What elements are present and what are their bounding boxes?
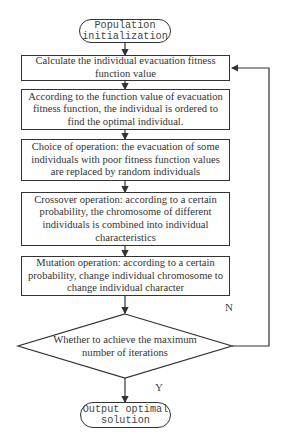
arrow-loop-back-no <box>232 68 269 346</box>
start-terminator: Population initialization <box>79 19 171 43</box>
step-fitness-box: Calculate the individual evacuation fitn… <box>21 55 230 81</box>
end-terminator: Output optimal solution <box>80 402 171 428</box>
flowchart: Population initialization Calculate the … <box>0 0 282 443</box>
no-branch-label: N <box>225 301 233 313</box>
step-crossover-box: Crossover operation: according to a cert… <box>21 192 230 246</box>
step-selection-box: Choice of operation: the evacuation of s… <box>21 139 230 181</box>
yes-branch-label: Y <box>155 381 163 393</box>
step-mutation-box: Mutation operation: according to a certa… <box>21 256 230 296</box>
step-sort-box: According to the function value of evacu… <box>21 89 230 130</box>
decision-label: Whether to achieve the maximum number of… <box>45 334 205 359</box>
